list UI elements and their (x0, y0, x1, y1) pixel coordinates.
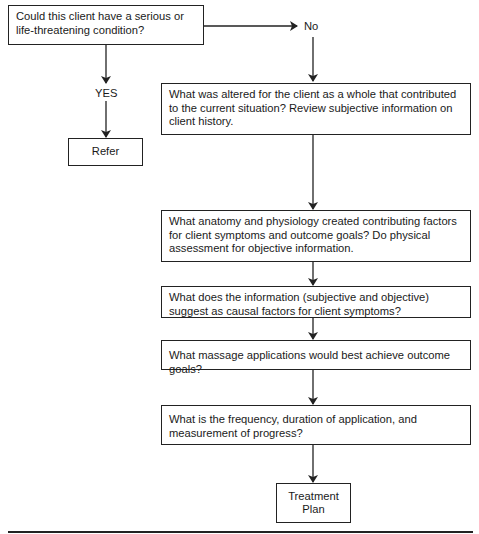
treatment-plan-box: Treatment Plan (276, 483, 351, 523)
step-box-5: What is the frequency, duration of appli… (161, 405, 471, 445)
refer-text: Refer (92, 145, 119, 159)
start-question-text: Could this client have a serious or life… (16, 10, 184, 36)
treatment-plan-line-2: Plan (302, 503, 324, 517)
step-box-4: What massage applications would best ach… (161, 340, 471, 370)
treatment-plan-line-1: Treatment (288, 490, 339, 504)
start-question-box: Could this client have a serious or life… (8, 5, 204, 45)
step-text-3: What does the information (subjective an… (169, 291, 429, 317)
bottom-rule (8, 531, 473, 533)
connector-lines (0, 0, 479, 534)
step-text-1: What was altered for the client as a who… (169, 88, 456, 127)
yes-label: YES (95, 87, 117, 100)
step-box-2: What anatomy and physiology created cont… (161, 210, 471, 262)
no-label: No (304, 20, 318, 33)
step-box-1: What was altered for the client as a who… (161, 83, 471, 135)
refer-box: Refer (68, 138, 143, 166)
step-box-3: What does the information (subjective an… (161, 286, 471, 318)
step-text-5: What is the frequency, duration of appli… (169, 413, 417, 439)
step-text-2: What anatomy and physiology created cont… (169, 215, 457, 254)
